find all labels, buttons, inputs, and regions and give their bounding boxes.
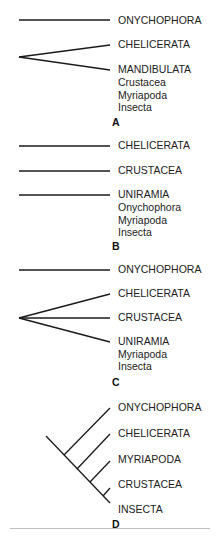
taxon-label: MANDIBULATA (118, 63, 191, 76)
panel-label-a: A (112, 116, 120, 128)
taxon-label: MYRIAPODA (118, 453, 181, 466)
subtaxon-label: Crustacea (118, 76, 166, 89)
branch-d-onychophora (64, 408, 110, 455)
branch-a-chelicerata (19, 45, 110, 57)
taxon-label: CHELICERATA (118, 427, 190, 440)
branch-d-stem (46, 436, 110, 503)
subtaxon-label: Insecta (118, 226, 152, 239)
subtaxon-label: Myriapoda (118, 348, 167, 361)
branch-c-chelicerata (19, 294, 110, 318)
taxon-label: CHELICERATA (118, 287, 190, 300)
taxon-label: CRUSTACEA (118, 311, 182, 324)
branch-c-uniramia (19, 318, 110, 342)
subtaxon-label: Insecta (118, 101, 152, 114)
taxon-label: ONYCHOPHORA (118, 14, 201, 27)
branch-a-mandibulata (19, 57, 110, 70)
taxon-label: CHELICERATA (118, 38, 190, 51)
branch-d-crustacea (103, 488, 110, 496)
divider (10, 528, 210, 529)
taxon-label: CRUSTACEA (118, 478, 182, 491)
taxon-label: ONYCHOPHORA (118, 401, 201, 414)
branch-d-chelicerata (77, 434, 110, 469)
subtaxon-label: Myriapoda (118, 214, 167, 227)
taxon-label: ONYCHOPHORA (118, 263, 201, 276)
taxon-label: CHELICERATA (118, 139, 190, 152)
taxon-label: CRUSTACEA (118, 164, 182, 177)
taxon-label: INSECTA (118, 503, 163, 516)
panel-label-c: C (112, 376, 120, 388)
subtaxon-label: Onychophora (118, 201, 181, 214)
taxon-label: UNIRAMIA (118, 335, 169, 348)
branch-d-myriapoda (90, 461, 110, 482)
subtaxon-label: Insecta (118, 360, 152, 373)
subtaxon-label: Myriapoda (118, 89, 167, 102)
panel-label-b: B (112, 240, 120, 252)
taxon-label: UNIRAMIA (118, 188, 169, 201)
